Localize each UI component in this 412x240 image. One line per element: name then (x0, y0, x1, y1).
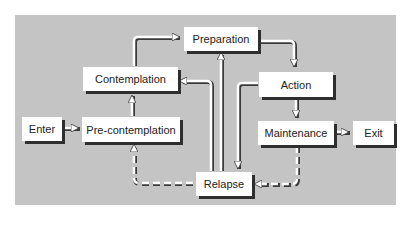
node-label: Pre-contemplation (86, 124, 175, 136)
node-label: Enter (29, 123, 55, 135)
node-label: Preparation (193, 33, 250, 45)
edge-relapse-contemplation (181, 81, 212, 171)
edge-relapse-preparation (221, 54, 222, 171)
edge-precontemplation-contemplation (132, 96, 133, 116)
edge-relapse-precontemplation (134, 146, 193, 184)
edge-enter-precontemplation (64, 128, 80, 129)
node-label: Action (281, 79, 312, 91)
node-label: Exit (364, 127, 382, 139)
node-enter: Enter (22, 117, 62, 141)
node-label: Maintenance (265, 127, 328, 139)
edge-maintenance-exit (336, 132, 350, 133)
node-contemplation: Contemplation (83, 67, 178, 91)
edge-action-maintenance (296, 99, 297, 118)
node-precontemplation: Pre-contemplation (82, 117, 180, 142)
node-label: Contemplation (95, 73, 166, 85)
node-exit: Exit (353, 121, 394, 145)
edge-contemplation-preparation (134, 37, 180, 66)
edge-preparation-action (260, 41, 295, 67)
node-maintenance: Maintenance (258, 121, 334, 145)
node-relapse: Relapse (196, 172, 252, 196)
node-preparation: Preparation (184, 27, 258, 51)
node-action: Action (259, 72, 333, 97)
node-label: Relapse (204, 178, 244, 190)
edge-maintenance-relapse (256, 146, 298, 185)
edge-action-relapse (238, 83, 258, 169)
